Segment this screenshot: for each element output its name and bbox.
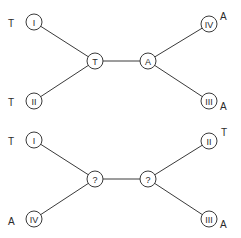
leaf-node-I: IT: [8, 132, 42, 148]
character-state-label: A: [220, 11, 227, 22]
leaf-node-IV: IVA: [201, 11, 227, 33]
character-state-label: T: [8, 18, 14, 29]
leaf-node-III: IIIA: [201, 211, 227, 230]
tree-branch: [34, 179, 95, 219]
character-state-label: T: [8, 97, 14, 108]
tree-branch: [148, 61, 209, 101]
internal-node-right: ?: [140, 171, 156, 187]
character-state-label: T: [221, 127, 227, 138]
taxon-label: II: [31, 97, 36, 107]
tree-branch: [148, 179, 209, 219]
internal-node-right: A: [140, 53, 156, 69]
character-state-label: T: [8, 136, 14, 147]
taxon-label: I: [33, 136, 36, 146]
tree-branch: [34, 22, 95, 61]
node-label: A: [145, 57, 151, 67]
character-state-label: A: [220, 101, 227, 112]
leaf-node-IV: IVA: [8, 211, 42, 227]
character-state-label: A: [220, 219, 227, 230]
internal-node-left: T: [87, 53, 103, 69]
leaf-node-II: IIT: [201, 127, 227, 150]
taxon-label: II: [206, 137, 211, 147]
taxon-label: III: [205, 97, 213, 107]
tree-branch: [148, 24, 209, 61]
tree-branch: [34, 140, 95, 179]
internal-node-left: ?: [87, 171, 103, 187]
leaf-node-II: IIT: [8, 93, 42, 109]
taxon-label: IV: [30, 215, 39, 225]
bottom-tree: ??ITIVAIITIIIA: [8, 127, 227, 230]
taxon-label: III: [205, 215, 213, 225]
tree-branch: [34, 61, 95, 101]
top-tree: TAITIITIVAIIIA: [8, 11, 227, 112]
tree-branch: [148, 141, 209, 179]
leaf-node-I: IT: [8, 14, 42, 30]
taxon-label: I: [33, 18, 36, 28]
leaf-node-III: IIIA: [201, 93, 227, 112]
taxon-label: IV: [205, 20, 214, 30]
node-label: ?: [92, 175, 97, 185]
node-label: T: [92, 57, 98, 67]
character-state-label: A: [8, 216, 15, 227]
phylogenetic-tree-diagram: TAITIITIVAIIIA??ITIVAIITIIIA: [0, 0, 241, 238]
node-label: ?: [145, 175, 150, 185]
